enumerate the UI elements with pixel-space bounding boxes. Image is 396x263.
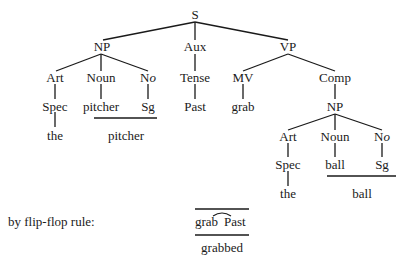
node-grab: grab	[231, 100, 254, 114]
node-vp: VP	[280, 40, 297, 54]
node-sg: Sg	[141, 100, 155, 114]
node-number-2: No	[374, 130, 390, 144]
number-suffix: o	[149, 70, 156, 85]
node-past: Past	[184, 100, 206, 114]
node-number: No	[140, 71, 156, 85]
node-ball-combined: ball	[352, 187, 372, 201]
node-pitcher-combined: pitcher	[108, 129, 144, 143]
node-ball: ball	[325, 158, 345, 172]
node-noun-2: Noun	[321, 130, 350, 144]
node-art-2: Art	[279, 130, 296, 144]
node-noun: Noun	[87, 71, 116, 85]
number-prefix-2: N	[374, 129, 383, 144]
node-pitcher: pitcher	[83, 100, 119, 114]
rule-left-morpheme: grab	[195, 215, 218, 229]
rule-result: grabbed	[201, 241, 243, 255]
node-comp: Comp	[319, 71, 351, 85]
node-np2: NP	[327, 100, 344, 114]
node-the: the	[47, 129, 63, 143]
number-suffix-2: o	[383, 129, 390, 144]
node-spec-2: Spec	[275, 158, 300, 172]
rule-caption: by flip-flop rule:	[8, 215, 95, 229]
rule-right-morpheme: Past	[224, 215, 246, 229]
node-mv: MV	[233, 71, 254, 85]
node-np: NP	[94, 40, 111, 54]
node-the-2: the	[280, 187, 296, 201]
node-sg-2: Sg	[375, 158, 389, 172]
node-spec: Spec	[42, 100, 67, 114]
node-tense: Tense	[180, 71, 210, 85]
node-s: S	[191, 8, 198, 22]
number-prefix: N	[140, 70, 149, 85]
node-art: Art	[46, 71, 63, 85]
node-aux: Aux	[184, 40, 206, 54]
